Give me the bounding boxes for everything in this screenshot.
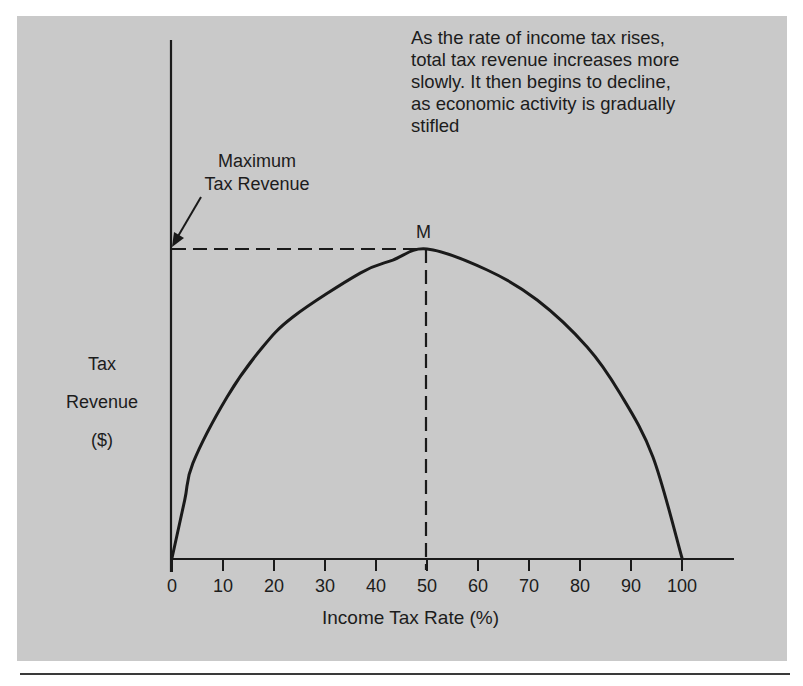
x-tick-label: 90 — [621, 576, 641, 597]
x-tick-label: 0 — [167, 576, 177, 597]
x-tick-label: 10 — [213, 576, 233, 597]
x-axis-label: Income Tax Rate (%) — [322, 607, 499, 629]
annotation-line: total tax revenue increases more — [411, 49, 771, 71]
annotation-line: slowly. It then begins to decline, — [411, 71, 771, 93]
x-tick-label: 80 — [570, 576, 590, 597]
peak-label: M — [416, 222, 431, 243]
x-tick-label: 60 — [468, 576, 488, 597]
x-tick-label: 30 — [315, 576, 335, 597]
x-tick-label: 50 — [417, 576, 437, 597]
y-axis-label-line: ($) — [52, 428, 152, 466]
max-label-line: Tax Revenue — [192, 173, 322, 196]
explanation-annotation: As the rate of income tax rises, total t… — [411, 27, 771, 137]
y-axis-label: Tax Revenue ($) — [52, 352, 152, 466]
bottom-rule — [20, 673, 790, 675]
y-axis-label-line: Revenue — [52, 390, 152, 428]
arrow-icon — [172, 197, 201, 247]
max-tax-revenue-label: Maximum Tax Revenue — [192, 150, 322, 196]
annotation-line: as economic activity is gradually — [411, 93, 771, 115]
max-label-line: Maximum — [192, 150, 322, 173]
annotation-line: stifled — [411, 115, 771, 137]
x-tick-label: 100 — [667, 576, 697, 597]
x-tick-label: 40 — [366, 576, 386, 597]
x-tick-label: 70 — [519, 576, 539, 597]
x-tick-label: 20 — [264, 576, 284, 597]
annotation-line: As the rate of income tax rises, — [411, 27, 771, 49]
y-axis-label-line: Tax — [52, 352, 152, 390]
